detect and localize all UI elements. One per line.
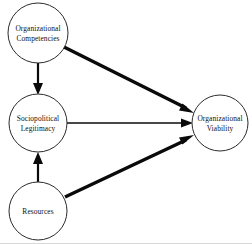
edge-competencies-to-viability	[64, 47, 194, 113]
arrowhead-resources-legitimacy	[33, 152, 43, 164]
node-label-resources-line1: Resources	[22, 207, 53, 216]
edge-resources-to-viability	[65, 135, 194, 197]
edge-resources-to-legitimacy	[33, 152, 43, 182]
edge-competencies-to-legitimacy	[33, 63, 43, 95]
path-diagram-container: Organizational Competencies Sociopolitic…	[0, 0, 252, 244]
edge-legitimacy-to-viability	[67, 119, 193, 128]
node-label-organizational-viability-line2: Viability	[207, 124, 234, 133]
node-organizational-viability[interactable]: Organizational Viability	[192, 95, 248, 151]
diagram-canvas: Organizational Competencies Sociopolitic…	[0, 0, 252, 244]
arrowhead-competencies-legitimacy	[33, 83, 43, 95]
node-resources[interactable]: Resources	[9, 182, 67, 240]
edge-line-resources-viability	[65, 140, 186, 197]
node-label-organizational-competencies-line1: Organizational	[15, 24, 60, 33]
node-label-sociopolitical-legitimacy-line1: Sociopolitical	[17, 114, 59, 123]
node-organizational-competencies[interactable]: Organizational Competencies	[8, 3, 68, 63]
edge-line-competencies-viability	[64, 47, 186, 108]
node-label-organizational-viability-line1: Organizational	[197, 114, 242, 123]
node-label-sociopolitical-legitimacy-line2: Legitimacy	[21, 124, 56, 133]
arrowhead-legitimacy-viability	[181, 119, 193, 128]
node-sociopolitical-legitimacy[interactable]: Sociopolitical Legitimacy	[9, 94, 67, 152]
node-label-organizational-competencies-line2: Competencies	[16, 34, 59, 43]
